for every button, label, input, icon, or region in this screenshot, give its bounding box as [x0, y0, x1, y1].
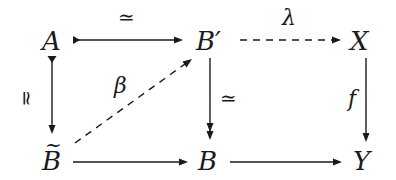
label-a-b-prime-equivalence: ≃ — [118, 5, 135, 29]
arrow-b-prime-to-b — [207, 58, 214, 140]
arrow-b-to-y — [230, 159, 342, 166]
arrow-b-tilde-to-b — [73, 159, 188, 166]
commutative-diagram: A B′ X ~ B B Y ≃ λ ≃ β ≃ f — [0, 0, 396, 180]
arrow-x-to-y — [363, 58, 370, 142]
node-y: Y — [353, 146, 373, 176]
arrow-b-tilde-to-b-prime — [75, 59, 192, 143]
label-lambda: λ — [281, 5, 296, 30]
node-x: X — [348, 26, 370, 56]
arrow-a-to-b-tilde — [48, 56, 57, 134]
node-b-tilde: B — [41, 146, 61, 176]
node-a: A — [40, 26, 61, 56]
label-f: f — [346, 86, 360, 111]
label-a-b-tilde-equivalence: ≃ — [15, 90, 39, 107]
label-b-prime-b-equivalence: ≃ — [220, 86, 237, 110]
arrow-a-to-b-prime — [73, 36, 183, 44]
arrow-b-prime-to-x — [240, 37, 341, 44]
node-b-prime: B′ — [195, 26, 221, 56]
node-b: B — [197, 146, 217, 176]
label-beta: β — [113, 73, 127, 98]
